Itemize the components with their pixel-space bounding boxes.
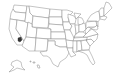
state-co[interactable] [36,28,51,39]
contiguous-states [9,2,112,67]
state-hi-2[interactable] [33,62,35,63]
us-states-map: United States [0,0,118,76]
state-ma-ct-ri[interactable] [100,16,107,20]
hawaii [30,61,40,68]
state-ny[interactable] [87,11,100,22]
state-fl[interactable] [78,50,95,65]
state-nd[interactable] [49,9,62,17]
state-ks[interactable] [51,32,66,39]
state-ak[interactable] [9,60,25,72]
state-sd[interactable] [49,17,63,25]
state-ms[interactable] [73,41,77,52]
alaska [9,60,25,72]
state-hi-3[interactable] [37,65,40,68]
state-nm[interactable] [35,38,48,51]
state-me[interactable] [104,2,112,16]
state-vt-nh[interactable] [99,8,104,17]
state-hi-1[interactable] [30,61,31,62]
state-wy[interactable] [32,16,49,28]
